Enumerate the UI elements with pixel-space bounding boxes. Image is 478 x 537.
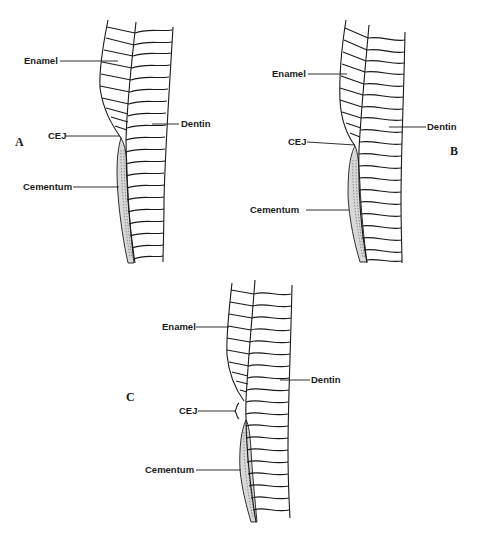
cej-bracket-icon bbox=[235, 403, 239, 419]
label-cementum-b: Cementum bbox=[250, 204, 299, 215]
label-cej-a: CEJ bbox=[48, 130, 66, 141]
cementum-a bbox=[117, 138, 134, 263]
enamel-outer-surface-c bbox=[227, 283, 244, 401]
label-dentin-c: Dentin bbox=[311, 374, 341, 385]
dentin-pulpal-surface-b bbox=[401, 32, 405, 263]
panel-b: Enamel CEJ Dentin Cementum B bbox=[250, 20, 458, 263]
enamel-outer-surface-b bbox=[340, 20, 355, 146]
dentin-pulpal-surface-c bbox=[288, 285, 292, 518]
label-cementum-a: Cementum bbox=[23, 181, 72, 192]
label-cementum-c: Cementum bbox=[145, 464, 194, 475]
label-cej-b: CEJ bbox=[288, 136, 306, 147]
cej-diagram: Enamel CEJ Dentin Cementum A bbox=[0, 0, 478, 537]
label-enamel-a: Enamel bbox=[24, 55, 58, 66]
panel-label-b: B bbox=[450, 144, 458, 158]
panel-a: Enamel CEJ Dentin Cementum A bbox=[15, 20, 211, 263]
panel-label-a: A bbox=[15, 135, 24, 149]
label-enamel-c: Enamel bbox=[162, 321, 196, 332]
label-cej-c: CEJ bbox=[179, 405, 197, 416]
panel-label-c: C bbox=[126, 390, 135, 404]
label-dentin-b: Dentin bbox=[427, 121, 457, 132]
enamel-outer-surface-a bbox=[100, 20, 121, 138]
dentinal-tubules-b bbox=[359, 38, 405, 262]
panel-c: Enamel CEJ Dentin Cementum C bbox=[126, 280, 341, 522]
dentinal-tubules-a bbox=[126, 30, 172, 259]
cementum-c bbox=[240, 420, 257, 522]
dentin-pulpal-surface-a bbox=[163, 27, 173, 262]
label-enamel-b: Enamel bbox=[272, 68, 306, 79]
label-dentin-a: Dentin bbox=[181, 118, 211, 129]
